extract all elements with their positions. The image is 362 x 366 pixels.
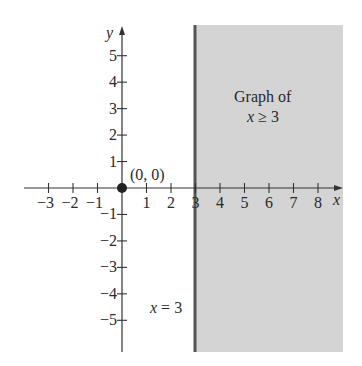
y-tick-label: 4 xyxy=(109,73,117,90)
x-tick-label: 3 xyxy=(192,194,200,211)
y-tick-label: −3 xyxy=(100,258,117,275)
y-tick-label: 5 xyxy=(109,47,117,64)
x-tick-label: 2 xyxy=(167,194,175,211)
x-tick-label: 4 xyxy=(216,194,224,211)
y-axis-label: y xyxy=(104,24,114,42)
region-title-line1: Graph of xyxy=(234,88,292,106)
y-axis-arrow-icon xyxy=(119,26,125,35)
x-tick-label: −2 xyxy=(61,194,78,211)
y-tick-label: 1 xyxy=(109,153,117,170)
x-tick-label: 7 xyxy=(290,194,298,211)
y-tick-label: −2 xyxy=(100,232,117,249)
x-tick-label: 5 xyxy=(241,194,249,211)
x-tick-label: 6 xyxy=(265,194,273,211)
origin-label: (0, 0) xyxy=(130,166,165,184)
y-tick-label: −4 xyxy=(100,285,117,302)
y-tick-label: −1 xyxy=(100,205,117,222)
y-tick-label: 2 xyxy=(109,126,117,143)
x-tick-label: 1 xyxy=(143,194,151,211)
boundary-label: x = 3 xyxy=(149,299,182,316)
inequality-graph: −3−2−112345678 x 54321−1−2−3−4−5 y (0, 0… xyxy=(0,0,362,366)
x-tick-label: −3 xyxy=(37,194,54,211)
origin-point xyxy=(117,183,127,193)
y-tick-label: 3 xyxy=(109,100,117,117)
x-tick-label: 8 xyxy=(314,194,322,211)
x-axis-label: x xyxy=(332,191,340,208)
region-title-line2: x ≥ 3 xyxy=(246,108,279,125)
y-tick-label: −5 xyxy=(100,311,117,328)
